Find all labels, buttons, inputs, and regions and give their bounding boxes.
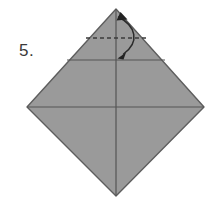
step-number-label: 5. (19, 42, 34, 59)
origami-diagram: 5. (0, 0, 221, 205)
diagram-canvas (0, 0, 221, 205)
